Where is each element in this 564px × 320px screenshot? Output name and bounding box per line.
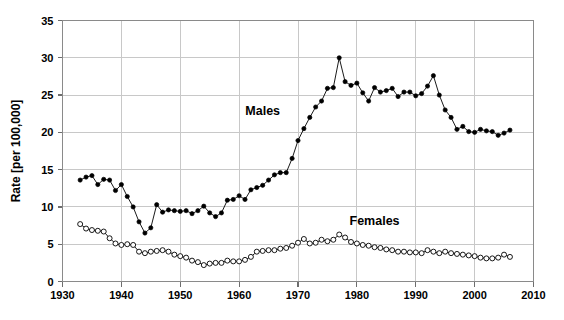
data-point: [172, 252, 177, 257]
data-point: [160, 248, 165, 253]
data-point: [414, 94, 418, 98]
data-point: [125, 194, 129, 198]
data-point: [455, 127, 459, 131]
data-point: [496, 255, 501, 260]
data-point: [231, 259, 236, 264]
data-point: [231, 197, 235, 201]
data-point: [154, 248, 159, 253]
data-point: [284, 171, 288, 175]
series-label-females: Females: [350, 214, 400, 228]
y-axis-title: Rate [per 100,000]: [9, 100, 23, 203]
data-point: [108, 178, 112, 182]
data-point: [184, 255, 189, 260]
data-point: [296, 138, 300, 142]
data-point: [225, 198, 229, 202]
data-point: [178, 254, 183, 259]
x-tick-label: 1990: [404, 289, 428, 301]
data-point: [443, 108, 447, 112]
data-point: [484, 256, 489, 261]
data-point: [413, 250, 418, 255]
data-point: [466, 253, 471, 258]
data-point: [431, 74, 435, 78]
data-point: [425, 84, 429, 88]
data-point: [213, 215, 217, 219]
line-chart: 05101520253035 1930194019501960197019801…: [0, 0, 564, 320]
x-tick-label: 1940: [109, 289, 133, 301]
y-tick-label: 15: [41, 164, 53, 176]
data-point: [290, 243, 295, 248]
data-point: [166, 249, 171, 254]
data-point: [278, 246, 283, 251]
data-point: [407, 250, 412, 255]
data-point: [196, 209, 200, 213]
data-point: [278, 171, 282, 175]
data-point: [219, 260, 224, 265]
data-point: [313, 240, 318, 245]
data-point: [290, 156, 294, 160]
data-point: [390, 86, 394, 90]
data-point: [225, 258, 230, 263]
data-point: [78, 178, 82, 182]
data-point: [431, 249, 436, 254]
y-tick-label: 5: [47, 238, 53, 250]
data-point: [367, 99, 371, 103]
data-point: [172, 209, 176, 213]
data-point: [348, 239, 353, 244]
data-point: [195, 260, 200, 265]
data-point: [449, 115, 453, 119]
data-point: [113, 241, 118, 246]
data-point: [502, 252, 507, 257]
y-tick-label: 0: [47, 276, 53, 288]
data-point: [178, 209, 182, 213]
data-point: [396, 249, 401, 254]
chart-container: 05101520253035 1930194019501960197019801…: [0, 0, 564, 320]
data-point: [219, 211, 223, 215]
data-point: [302, 127, 306, 131]
data-point: [384, 89, 388, 93]
data-point: [408, 90, 412, 94]
data-point: [208, 211, 212, 215]
data-point: [101, 229, 106, 234]
data-point: [261, 183, 265, 187]
data-point: [420, 91, 424, 95]
data-point: [113, 188, 117, 192]
data-point: [166, 208, 170, 212]
data-point: [319, 237, 324, 242]
y-tick-label: 20: [41, 126, 53, 138]
x-tick-label: 1930: [50, 289, 74, 301]
data-point: [361, 91, 365, 95]
data-point: [148, 249, 153, 254]
data-point: [401, 249, 406, 254]
data-point: [354, 241, 359, 246]
x-tick-label: 1970: [286, 289, 310, 301]
data-point: [119, 242, 124, 247]
data-point: [490, 256, 495, 261]
data-point: [384, 247, 389, 252]
data-point: [325, 239, 330, 244]
data-point: [255, 185, 259, 189]
x-tick-label: 1980: [345, 289, 369, 301]
data-point: [390, 248, 395, 253]
data-point: [131, 205, 135, 209]
data-point: [467, 130, 471, 134]
data-point: [454, 251, 459, 256]
data-point: [95, 228, 100, 233]
data-point: [284, 245, 289, 250]
data-point: [143, 231, 147, 235]
data-point: [237, 194, 241, 198]
data-point: [402, 90, 406, 94]
data-point: [96, 182, 100, 186]
data-point: [337, 232, 342, 237]
data-point: [266, 248, 271, 253]
data-point: [125, 242, 130, 247]
data-point: [508, 128, 512, 132]
data-point: [425, 248, 430, 253]
data-point: [314, 105, 318, 109]
y-tick-label: 30: [41, 52, 53, 64]
data-point: [331, 237, 336, 242]
data-point: [419, 251, 424, 256]
data-point: [272, 173, 276, 177]
data-point: [184, 209, 188, 213]
data-point: [202, 204, 206, 208]
data-point: [449, 251, 454, 256]
